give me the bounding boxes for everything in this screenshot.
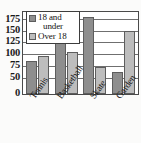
bar-chart: 175 150 125 100 75 50 0 18 and under Ove…	[0, 0, 141, 143]
light-gray-swatch-icon	[29, 33, 36, 40]
y-axis-tick-100: 100	[0, 48, 20, 59]
bar-skate-18-and-under	[83, 17, 94, 94]
x-axis-tick-labels: Tennis Basketball Skate Garden	[22, 95, 139, 143]
legend-label-over-18: Over 18	[38, 32, 67, 41]
legend-entry-over-18: Over 18	[29, 32, 77, 41]
y-axis-tick-75: 75	[0, 60, 20, 71]
dark-gray-swatch-icon	[29, 15, 36, 22]
y-axis-tick-150: 150	[0, 25, 20, 36]
y-axis-tick-175: 175	[0, 14, 20, 25]
y-axis-tick-125: 125	[0, 36, 20, 47]
y-axis-tick-0: 0	[0, 88, 20, 99]
y-axis-tick-50: 50	[0, 72, 20, 83]
legend: 18 and under Over 18	[26, 11, 80, 44]
y-axis-tick-labels: 175 150 125 100 75 50 0	[0, 0, 20, 143]
